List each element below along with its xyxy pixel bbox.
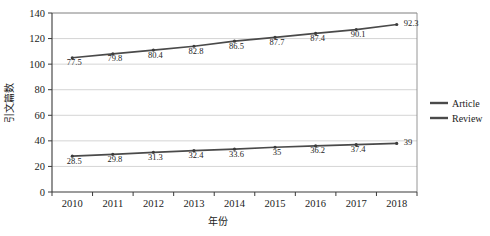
x-tick-label: 2018 <box>386 198 407 209</box>
data-point-label: 36.2 <box>310 145 325 155</box>
data-point-label: 31.3 <box>148 152 163 162</box>
y-tick-label: 120 <box>29 33 45 44</box>
data-point-label: 37.4 <box>351 144 367 154</box>
data-point-label: 33.6 <box>229 149 244 159</box>
legend-label-review: Review <box>452 113 483 124</box>
data-point-label: 32.4 <box>189 150 205 160</box>
x-tick-label: 2010 <box>62 198 83 209</box>
data-point-label: 77.5 <box>67 57 82 67</box>
x-tick-label: 2012 <box>143 198 164 209</box>
x-axis-ticks-group: 201020112012201320142015201620172018 <box>52 192 417 209</box>
data-point-label: 92.3 <box>404 18 419 28</box>
data-point-label: 86.5 <box>229 41 244 51</box>
y-tick-label: 60 <box>35 110 46 121</box>
y-tick-label: 40 <box>35 135 46 146</box>
data-point-label: 87.4 <box>310 33 326 43</box>
data-point-label: 29.8 <box>107 154 122 164</box>
y-tick-label: 20 <box>35 161 46 172</box>
x-tick-label: 2014 <box>224 198 246 209</box>
x-tick-label: 2015 <box>265 198 286 209</box>
data-point-label: 90.1 <box>351 29 366 39</box>
data-point-label: 82.8 <box>189 46 204 56</box>
chart-canvas: 020406080100120140 201020112012201320142… <box>0 0 490 236</box>
y-tick-label: 0 <box>40 187 45 198</box>
data-point-label: 39 <box>404 137 413 147</box>
x-tick-label: 2013 <box>183 198 204 209</box>
x-axis-title: 年份 <box>208 215 228 227</box>
x-tick-label: 2016 <box>305 198 326 209</box>
legend-label-article: Article <box>452 98 480 109</box>
data-point-label: 79.8 <box>107 53 122 63</box>
y-tick-label: 100 <box>29 59 45 70</box>
data-point-label: 80.4 <box>148 50 164 60</box>
data-point-label: 87.7 <box>270 37 285 47</box>
data-point-label: 35 <box>273 147 282 157</box>
data-point-marker <box>395 23 398 26</box>
data-point-label: 28.5 <box>67 156 82 166</box>
y-axis-title: 引文篇数 <box>3 83 15 123</box>
x-tick-label: 2017 <box>346 198 367 209</box>
data-point-marker <box>395 142 398 145</box>
chart-legend: ArticleReview <box>430 98 483 124</box>
y-axis-ticks-group: 020406080100120140 <box>29 8 52 198</box>
y-tick-label: 140 <box>29 8 45 19</box>
citation-line-chart: 020406080100120140 201020112012201320142… <box>0 0 490 236</box>
y-tick-label: 80 <box>35 84 46 95</box>
x-tick-label: 2011 <box>103 198 124 209</box>
